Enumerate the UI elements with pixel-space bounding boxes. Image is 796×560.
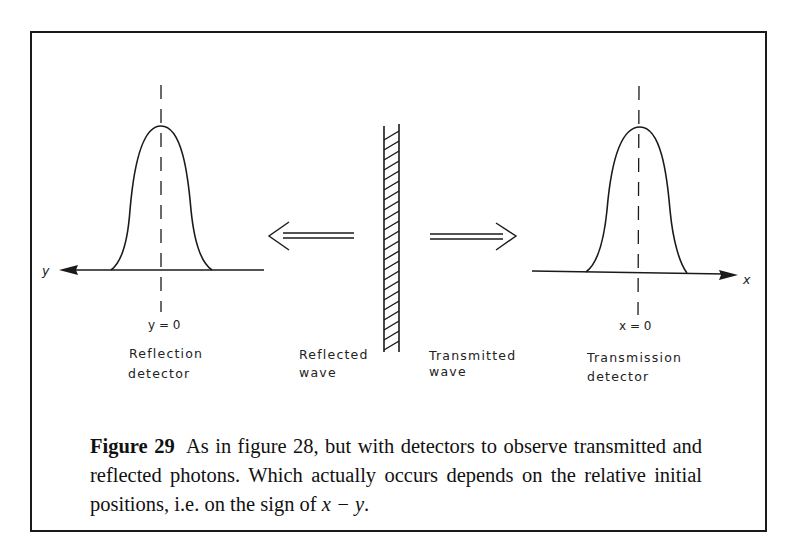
x-origin-label: x = 0 bbox=[619, 318, 651, 335]
figure-caption: Figure 29 As in figure 28, but with dete… bbox=[90, 432, 702, 519]
caption-math: x − y bbox=[322, 493, 364, 515]
reflected-wave-label-line2: wave bbox=[299, 364, 337, 381]
caption-end: . bbox=[364, 493, 369, 515]
x-axis bbox=[532, 271, 725, 274]
reflection-detector-label-line2: detector bbox=[128, 365, 190, 382]
y-origin-label: y = 0 bbox=[148, 317, 180, 334]
mirror-barrier bbox=[384, 124, 399, 352]
transmission-detector-label-line1: Transmission bbox=[587, 349, 682, 366]
y-axis-arrowhead bbox=[59, 265, 78, 275]
reflected-wave-label-line1: Reflected bbox=[299, 346, 369, 363]
transmission-detector-graph bbox=[532, 86, 738, 315]
y-axis-label: y bbox=[42, 262, 51, 279]
reflected-arrow bbox=[269, 222, 354, 250]
transmitted-wave-label-line1: Transmitted bbox=[429, 347, 516, 364]
x-axis-arrowhead bbox=[719, 270, 738, 280]
transmission-detector-label-line2: detector bbox=[587, 368, 649, 385]
reflection-detector-label-line1: Reflection bbox=[129, 345, 203, 362]
transmitted-arrow bbox=[430, 223, 516, 250]
x-axis-label: x bbox=[743, 271, 752, 288]
wavepacket-curve bbox=[111, 126, 212, 270]
wavepacket-curve bbox=[586, 127, 687, 273]
caption-text: As in figure 28, but with detectors to o… bbox=[90, 435, 702, 515]
figure-number: Figure 29 bbox=[90, 435, 175, 457]
reflection-detector-graph bbox=[59, 85, 264, 312]
transmitted-wave-label-line2: wave bbox=[429, 363, 467, 380]
center-dashed-line bbox=[638, 86, 639, 315]
